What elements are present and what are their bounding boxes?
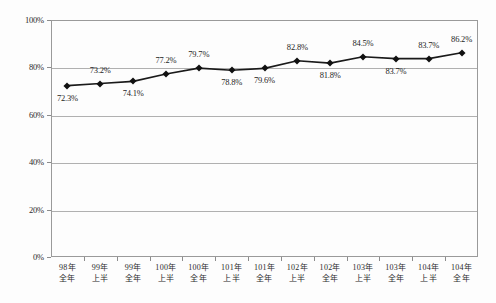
x-tick-mark [248,257,249,261]
data-point-label: 84.5% [353,38,374,48]
data-point-label: 83.7% [418,40,439,50]
data-point-label: 79.7% [188,49,209,59]
x-axis-label: 101年上半 [221,262,242,284]
x-axis-label: 100年上半 [155,262,176,284]
y-tick-mark-80 [47,67,51,68]
y-tick-mark-60 [47,115,51,116]
x-axis-label: 104年全年 [451,262,472,284]
x-tick-mark [150,257,151,261]
line-chart: 100% 80% 60% 40% 20% 0% 98年全年99年上半99年全年1… [0,0,496,303]
data-point-label: 83.7% [385,66,406,76]
x-axis-label: 103年全年 [385,262,406,284]
x-axis-label: 102年上半 [287,262,308,284]
x-tick-mark [84,257,85,261]
x-axis-label: 104年上半 [418,262,439,284]
y-tick-mark-0 [47,257,51,258]
x-axis-label: 99年上半 [92,262,109,284]
x-axis-label: 98年全年 [59,262,76,284]
x-tick-mark [281,257,282,261]
x-axis-label: 102年全年 [320,262,341,284]
plot-area [51,20,478,257]
x-tick-mark [445,257,446,261]
data-point-label: 81.8% [320,70,341,80]
y-axis-label-0: 0% [0,252,44,262]
gridline-60 [52,116,477,117]
x-tick-mark [379,257,380,261]
x-tick-mark [314,257,315,261]
data-point-label: 86.2% [451,34,472,44]
x-axis-label: 103年上半 [352,262,373,284]
data-point-label: 78.8% [221,77,242,87]
x-axis-label: 100年全年 [188,262,209,284]
gridline-20 [52,211,477,212]
y-tick-mark-40 [47,162,51,163]
x-tick-mark [347,257,348,261]
data-point-label: 72.3% [57,93,78,103]
x-tick-mark [117,257,118,261]
data-point-label: 79.6% [254,75,275,85]
y-axis-label-60: 60% [0,110,44,120]
y-axis-label-20: 20% [0,205,44,215]
y-axis-label-100: 100% [0,15,44,25]
y-axis-label-80: 80% [0,62,44,72]
data-point-label: 77.2% [155,55,176,65]
x-axis-label: 99年全年 [125,262,142,284]
y-axis-label-40: 40% [0,157,44,167]
x-axis-label: 101年全年 [254,262,275,284]
x-tick-mark [412,257,413,261]
y-tick-mark-100 [47,20,51,21]
x-tick-mark [215,257,216,261]
y-tick-mark-20 [47,210,51,211]
data-point-label: 82.8% [287,42,308,52]
data-point-label: 73.2% [90,65,111,75]
x-tick-mark [182,257,183,261]
data-point-label: 74.1% [123,88,144,98]
gridline-40 [52,163,477,164]
